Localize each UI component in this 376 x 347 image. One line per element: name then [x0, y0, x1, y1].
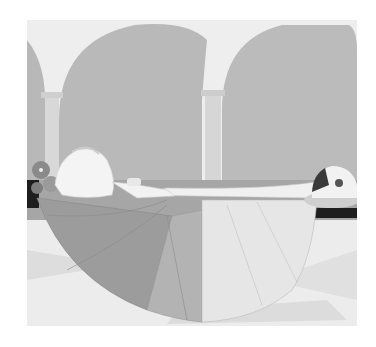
scene-svg	[27, 20, 357, 326]
illustration	[27, 20, 357, 326]
